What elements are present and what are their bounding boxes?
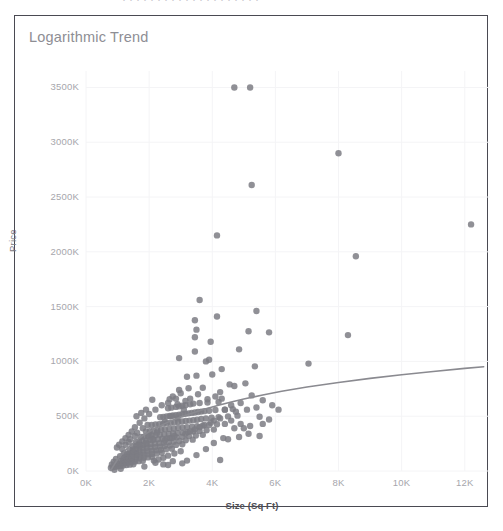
x-axis-title: Size (Sq Ft) [15, 500, 489, 511]
x-axis-tick-label: 12K [456, 477, 474, 488]
x-axis-tick-label: 6K [269, 477, 281, 488]
x-axis-tick-label: 0K [80, 477, 92, 488]
y-axis-tick-label: 500K [56, 410, 79, 421]
document-text-sliver-content: · · · · · · · · · · · · · · · · · · · · [122, 0, 259, 8]
y-axis-tick-label: 2000K [51, 246, 79, 257]
x-axis-tick-label: 2K [143, 477, 155, 488]
x-axis-tick-label: 8K [332, 477, 344, 488]
y-axis-tick-label: 0K [67, 465, 79, 476]
y-axis-tick-label: 3500K [51, 81, 79, 92]
page-root: · · · · · · · · · · · · · · · · · · · · … [0, 0, 503, 531]
x-axis-tick-label: 10K [393, 477, 411, 488]
x-axis-tick-label: 4K [206, 477, 218, 488]
chart-title: Logarithmic Trend [29, 29, 148, 45]
x-axis-tick-labels: 0K2K4K6K8K10K12K [86, 471, 490, 491]
document-text-sliver: · · · · · · · · · · · · · · · · · · · · [0, 0, 503, 13]
y-axis-tick-labels: 0K500K1000K1500K2000K2500K3000K3500K [29, 71, 79, 471]
y-axis-tick-label: 1000K [51, 355, 79, 366]
y-axis-tick-label: 1500K [51, 301, 79, 312]
y-axis-tick-label: 3000K [51, 136, 79, 147]
scatter-plot-svg [86, 71, 490, 471]
y-axis-title: Price [7, 229, 18, 252]
chart-frame: Logarithmic Trend Price 0K500K1000K1500K… [14, 15, 488, 507]
plot-area [86, 71, 490, 471]
y-axis-tick-label: 2500K [51, 191, 79, 202]
